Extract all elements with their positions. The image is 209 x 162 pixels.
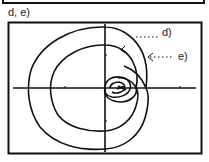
label-d: d) [162, 26, 172, 38]
curve-inner-loops [105, 77, 137, 102]
polar-plot: d) e) [0, 0, 209, 162]
label-e: e) [178, 50, 188, 62]
